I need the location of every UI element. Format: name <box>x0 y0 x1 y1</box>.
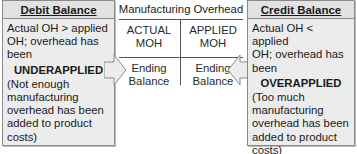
debit-balance-label: Balance <box>118 75 180 88</box>
t-account-top-line <box>119 19 243 20</box>
debit-balance-header: Debit Balance <box>3 1 114 19</box>
actual-label: ACTUAL <box>118 24 180 37</box>
debit-note-line3: overhead has been <box>7 104 110 117</box>
debit-ending-label: Ending <box>118 62 180 75</box>
t-account-vertical-line <box>180 19 181 85</box>
debit-condition-line1: Actual OH > applied <box>7 22 110 35</box>
applied-moh-label: MOH <box>182 37 244 50</box>
debit-note-line4: added to product <box>7 117 110 130</box>
t-account-title: Manufacturing Overhead <box>116 2 246 17</box>
actual-moh-label: MOH <box>118 37 180 50</box>
credit-note-line3: overhead has been <box>252 117 350 130</box>
credit-condition-line3: been <box>252 62 350 75</box>
credit-balance-box: Credit Balance Actual OH < applied OH; o… <box>247 0 355 146</box>
overapplied-label: OVERAPPLIED <box>252 77 350 90</box>
debit-note-line2: manufacturing <box>7 91 110 104</box>
debit-note-line5: costs) <box>7 131 110 144</box>
debit-note-line1: (Not enough <box>7 78 110 91</box>
debit-ending-balance-cell: Ending Balance <box>118 62 180 88</box>
credit-note-line4: added to product <box>252 131 350 144</box>
actual-moh-cell: ACTUAL MOH <box>118 24 180 50</box>
debit-condition-line2: OH; overhead has <box>7 35 110 48</box>
t-account-middle-line <box>119 57 243 58</box>
applied-label: APPLIED <box>182 24 244 37</box>
credit-balance-body: Actual OH < applied OH; overhead has bee… <box>248 19 354 154</box>
credit-note-line5: costs) <box>252 144 350 154</box>
applied-moh-cell: APPLIED MOH <box>182 24 244 50</box>
credit-balance-header: Credit Balance <box>248 1 354 19</box>
underapplied-label: UNDERAPPLIED <box>7 64 110 77</box>
credit-condition-line1: Actual OH < applied <box>252 22 350 48</box>
debit-condition-line3: been <box>7 48 110 61</box>
credit-note-line1: (Too much <box>252 91 350 104</box>
debit-balance-box: Debit Balance Actual OH > applied OH; ov… <box>2 0 115 146</box>
credit-condition-line2: OH; overhead has <box>252 48 350 61</box>
credit-note-line2: manufacturing <box>252 104 350 117</box>
debit-balance-body: Actual OH > applied OH; overhead has bee… <box>3 19 114 144</box>
